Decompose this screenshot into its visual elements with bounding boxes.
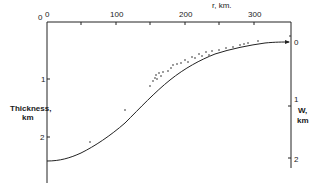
- left-axis-title-line2: km: [22, 113, 34, 122]
- right-tick-label-2: 2: [294, 155, 298, 164]
- x-tick-label-200: 200: [179, 10, 192, 19]
- right-tick-label-0: 0: [294, 38, 298, 47]
- left-tick-label-1: 1: [41, 75, 45, 84]
- corner-zero-label: 0: [38, 13, 42, 22]
- right-tick-label-1: 1: [294, 95, 298, 104]
- right-axis-title-line1: W,: [298, 106, 307, 115]
- right-axis-title-line2: km: [297, 116, 309, 125]
- left-axis-title-line1: Thickness,: [10, 104, 51, 113]
- thickness-profile-chart: [0, 0, 313, 185]
- left-tick-label-2: 2: [40, 133, 44, 142]
- x-tick-label-300: 300: [248, 10, 261, 19]
- curve-end-arrow: [285, 40, 290, 44]
- x-tick-label-100: 100: [110, 10, 123, 19]
- x-tick-label-0: 0: [45, 10, 49, 19]
- fitted-curve: [47, 42, 289, 161]
- observation-points: [89, 35, 291, 143]
- x-axis-title: r, km.: [212, 1, 232, 10]
